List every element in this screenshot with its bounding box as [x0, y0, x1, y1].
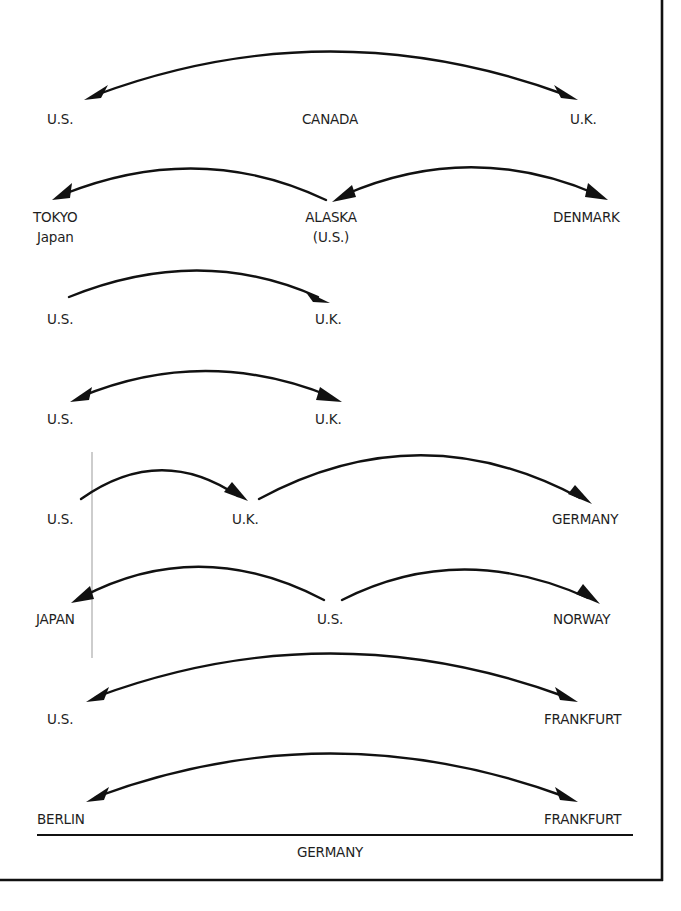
- diagram-canvas: U.S. CANADA U.K. TOKYO Japan ALASKA (U.S…: [0, 0, 681, 911]
- row-3: U.S. U.K.: [47, 271, 342, 328]
- arrow-alaska-tokyo: [64, 168, 326, 200]
- arrow-us-japan: [82, 567, 324, 600]
- label-us-row6: U.S.: [317, 611, 343, 627]
- label-us-row1: U.S.: [47, 111, 73, 127]
- label-uk-row4: U.K.: [315, 411, 342, 427]
- label-us-row5: U.S.: [47, 511, 73, 527]
- arrowhead-tokyo: [52, 183, 72, 200]
- label-us-row3: U.S.: [47, 311, 73, 327]
- arrow-alaska-denmark: [344, 167, 596, 195]
- row-8: BERLIN FRANKFURT GERMANY: [37, 754, 633, 861]
- label-tokyo: TOKYO: [32, 209, 77, 225]
- arrow-us-uk-row5: [81, 470, 238, 499]
- arrow-us-uk-row4: [80, 371, 332, 397]
- label-uk-row5: U.K.: [232, 511, 259, 527]
- label-denmark: DENMARK: [553, 209, 621, 225]
- label-us-row7: U.S.: [47, 711, 73, 727]
- label-frankfurt-row7: FRANKFURT: [544, 711, 622, 727]
- label-canada: CANADA: [302, 111, 359, 127]
- row-4: U.S. U.K.: [47, 371, 342, 427]
- arrow-us-uk-row3: [69, 271, 318, 298]
- label-norway: NORWAY: [553, 611, 611, 627]
- arrowhead-denmark: [585, 183, 608, 200]
- arrowhead-frankfurt-row8: [555, 787, 578, 802]
- label-japan-country: Japan: [36, 229, 74, 245]
- arrowhead-us-row7: [86, 687, 109, 702]
- arrow-berlin-frankfurt: [96, 754, 566, 798]
- arrow-us-frankfurt: [96, 654, 566, 698]
- row-7: U.S. FRANKFURT: [47, 654, 622, 728]
- row-1: U.S. CANADA U.K.: [47, 52, 597, 128]
- arrowhead-frankfurt-row7: [555, 687, 578, 702]
- label-frankfurt-row8: FRANKFURT: [544, 811, 622, 827]
- row-2: TOKYO Japan ALASKA (U.S.) DENMARK: [32, 167, 621, 245]
- arrowhead-uk-row4: [316, 387, 342, 402]
- arrow-us-norway: [342, 569, 588, 600]
- arrowhead-alaska: [332, 185, 356, 202]
- label-berlin: BERLIN: [37, 811, 85, 827]
- label-uk-row1: U.K.: [570, 111, 597, 127]
- arrowhead-berlin: [86, 787, 109, 802]
- arrowhead-germany: [568, 485, 592, 504]
- arrowhead-us-row4: [70, 387, 92, 402]
- label-us-row4: U.S.: [47, 411, 73, 427]
- arrow-uk-germany: [259, 455, 580, 499]
- label-germany-row5: GERMANY: [552, 511, 619, 527]
- label-uk-row3: U.K.: [315, 311, 342, 327]
- label-alaska: ALASKA: [305, 209, 357, 225]
- arrow-us-uk-row1: [96, 52, 566, 96]
- arrowhead-norway: [576, 584, 600, 604]
- label-japan-row6: JAPAN: [35, 611, 75, 627]
- label-germany-group: GERMANY: [297, 844, 364, 860]
- label-alaska-us: (U.S.): [313, 229, 349, 245]
- arrowhead-uk-row5: [224, 482, 248, 501]
- row-6: JAPAN U.S. NORWAY: [35, 567, 611, 627]
- arrowhead-japan: [71, 586, 94, 603]
- row-5: U.S. U.K. GERMANY: [47, 455, 619, 527]
